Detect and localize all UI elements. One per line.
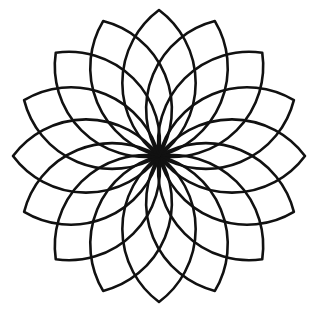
rosette-canvas [0, 0, 320, 314]
rosette-figure [0, 0, 320, 314]
